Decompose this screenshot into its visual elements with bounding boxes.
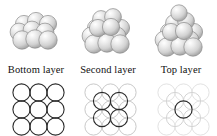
panel-caption-second: Second layer: [72, 63, 144, 76]
panel-caption-top: Top layer: [145, 63, 217, 76]
panel-caption-bottom: Bottom layer: [0, 63, 72, 76]
packing-diagram-bottom-layer: [0, 80, 72, 136]
packing-diagram-top-layer: [145, 80, 217, 136]
packing-diagram-second-layer: [72, 80, 144, 136]
sphere-stack-bottom-layer: [0, 0, 72, 62]
sphere-stack-second-layer: [72, 0, 144, 62]
panel-top-layer: Top layer: [145, 0, 217, 136]
sphere-stack-top-layer: [145, 0, 217, 62]
close-packing-figure: Bottom layer: [0, 0, 217, 136]
panel-second-layer: Second layer: [72, 0, 144, 136]
panel-bottom-layer: Bottom layer: [0, 0, 72, 136]
